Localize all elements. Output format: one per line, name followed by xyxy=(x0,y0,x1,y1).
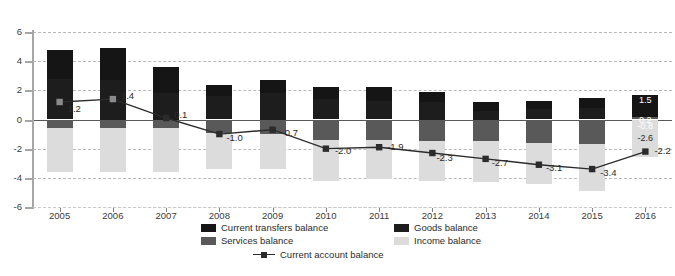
legend-item-income-balance: Income balance xyxy=(394,235,481,246)
y-axis-tick xyxy=(25,207,33,209)
legend-swatch-current-transfers-balance xyxy=(201,224,216,232)
line-point-value-label: -2.2 xyxy=(654,145,670,156)
plot-area: 1.50.2-0.8-2.6 xyxy=(33,32,672,207)
y-axis-tick-label: 2 xyxy=(0,84,22,95)
line-marker xyxy=(110,96,116,102)
x-axis-tick-label: 2007 xyxy=(141,210,191,221)
line-point-value-label: -2.7 xyxy=(492,157,508,168)
line-marker xyxy=(376,144,382,150)
legend-label-current-transfers-balance: Current transfers balance xyxy=(221,222,328,233)
x-axis-tick-label: 2012 xyxy=(407,210,457,221)
legend-label-current-account-balance: Current account balance xyxy=(280,249,384,260)
line-marker xyxy=(536,162,542,168)
y-axis-tick xyxy=(25,61,33,63)
line-marker xyxy=(642,148,648,154)
legend-item-services-balance: Services balance xyxy=(201,235,293,246)
legend-label-income-balance: Income balance xyxy=(414,235,481,246)
x-axis-tick-label: 2006 xyxy=(88,210,138,221)
stacked-bar-chart: 1.50.2-0.8-2.6 6420-2-4-6 20052006200720… xyxy=(0,0,675,276)
x-axis-tick-label: 2005 xyxy=(35,210,85,221)
y-axis-tick xyxy=(25,32,33,34)
line-marker xyxy=(323,145,329,151)
line-marker xyxy=(269,127,275,133)
y-axis-tick xyxy=(25,90,33,92)
legend-item-current-account-balance: Current account balance xyxy=(253,249,384,260)
legend-label-services-balance: Services balance xyxy=(221,235,293,246)
line-marker xyxy=(216,131,222,137)
x-axis-tick-label: 2013 xyxy=(461,210,511,221)
line-marker xyxy=(56,99,62,105)
y-axis-tick xyxy=(25,120,33,122)
current-account-balance-line xyxy=(33,32,672,207)
legend-swatch-services-balance xyxy=(201,237,216,245)
line-point-value-label: 1.2 xyxy=(68,103,81,114)
chart-legend: Current transfers balance Goods balance … xyxy=(0,222,675,261)
legend-item-goods-balance: Goods balance xyxy=(394,222,478,233)
y-axis-tick-label: -6 xyxy=(0,201,22,212)
line-point-value-label: -1.0 xyxy=(226,132,242,143)
legend-label-goods-balance: Goods balance xyxy=(414,222,478,233)
line-point-value-label: -3.1 xyxy=(546,162,562,173)
legend-item-current-transfers-balance: Current transfers balance xyxy=(201,222,328,233)
x-axis-tick-label: 2016 xyxy=(620,210,670,221)
line-point-value-label: -0.7 xyxy=(282,127,298,138)
y-axis-tick-label: -4 xyxy=(0,172,22,183)
line-point-value-label: 1.4 xyxy=(121,90,134,101)
x-axis-tick-label: 2008 xyxy=(194,210,244,221)
x-axis-tick-label: 2014 xyxy=(514,210,564,221)
y-axis-tick-label: 0 xyxy=(0,114,22,125)
line-point-value-label: -2.3 xyxy=(436,152,452,163)
y-axis-tick xyxy=(25,178,33,180)
y-axis-tick-label: 4 xyxy=(0,55,22,66)
legend-swatch-goods-balance xyxy=(394,224,409,232)
line-marker xyxy=(429,150,435,156)
line-path xyxy=(60,99,646,169)
legend-swatch-current-account-balance xyxy=(253,251,275,259)
line-marker xyxy=(589,166,595,172)
x-axis-tick-label: 2010 xyxy=(301,210,351,221)
line-point-value-label: -2.0 xyxy=(335,145,351,156)
x-axis xyxy=(33,207,672,208)
y-axis-tick-label: -2 xyxy=(0,143,22,154)
line-point-value-label: -3.4 xyxy=(600,167,616,178)
line-marker xyxy=(482,156,488,162)
x-axis-tick-label: 2009 xyxy=(248,210,298,221)
line-marker xyxy=(163,115,169,121)
line-point-value-label: 0.1 xyxy=(174,109,187,120)
x-axis-tick-label: 2015 xyxy=(567,210,617,221)
x-axis-tick-label: 2011 xyxy=(354,210,404,221)
legend-swatch-income-balance xyxy=(394,237,409,245)
y-axis-tick xyxy=(25,149,33,151)
line-point-value-label: -1.9 xyxy=(387,141,403,152)
y-axis-tick-label: 6 xyxy=(0,26,22,37)
